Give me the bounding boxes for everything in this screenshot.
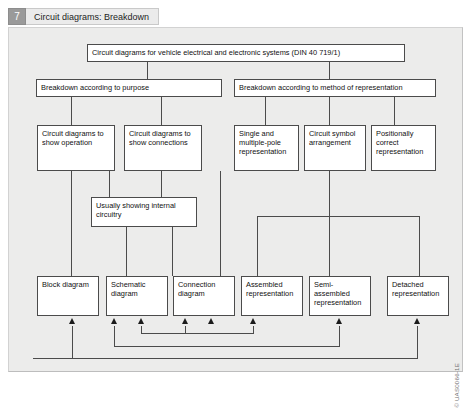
connector-connections-to-note [161, 171, 162, 197]
arrow-to-detached [414, 318, 420, 324]
arrow-to-connection-a [182, 318, 188, 324]
feedback-bus-outer [33, 358, 73, 359]
node-positionally-correct-label: Positionally correct representation [376, 129, 423, 156]
node-breakdown-purpose: Breakdown according to purpose [36, 79, 222, 97]
feedback-inner-c [253, 326, 254, 334]
feedback-second-a [114, 326, 115, 347]
connector-symbol-down [329, 171, 330, 216]
node-internal-circuitry: Usually showing internal circuitry [91, 197, 197, 227]
feedback-third-b [417, 326, 418, 359]
connector-symbol-bus-right [419, 216, 420, 276]
figure-title: Circuit diagrams: Breakdown [26, 8, 159, 25]
connector-symbol-bus-mid [329, 216, 330, 276]
node-schematic-diagram-label: Schematic diagram [111, 280, 146, 298]
node-breakdown-method-label: Breakdown according to method of represe… [239, 83, 403, 92]
feedback-inner-b [185, 326, 186, 334]
connector-operation-down [71, 171, 72, 276]
connector-purpose-b [161, 97, 162, 125]
node-semi-assembled-representation: Semi-assembled representation [309, 276, 371, 316]
node-symbol-arrangement: Circuit symbol arrangement [304, 125, 366, 171]
connector-root-right [329, 62, 330, 79]
feedback-third-a [72, 326, 73, 359]
node-block-diagram-label: Block diagram [42, 280, 89, 289]
node-connection-diagram: Connection diagram [173, 276, 235, 316]
node-positionally-correct: Positionally correct representation [371, 125, 436, 171]
node-semi-assembled-representation-label: Semi-assembled representation [314, 280, 361, 307]
node-assembled-representation-label: Assembled representation [246, 280, 293, 298]
node-block-diagram: Block diagram [37, 276, 99, 316]
node-symbol-arrangement-label: Circuit symbol arrangement [309, 129, 355, 147]
node-show-connections: Circuit diagrams to show connections [124, 125, 202, 171]
node-show-operation: Circuit diagrams to show operation [37, 125, 115, 171]
connector-method-a [265, 97, 266, 125]
node-detached-representation: Detached representation [387, 276, 449, 316]
node-assembled-representation: Assembled representation [241, 276, 303, 316]
node-show-connections-label: Circuit diagrams to show connections [129, 129, 191, 147]
node-single-multiple-pole-label: Single and multiple-pole representation [239, 129, 286, 156]
node-breakdown-purpose-label: Breakdown according to purpose [41, 83, 149, 92]
connector-note-b [172, 227, 173, 276]
connector-method-b [329, 97, 330, 125]
figure-number: 7 [8, 8, 26, 25]
connector-connections-down [220, 171, 221, 276]
node-show-operation-label: Circuit diagrams to show operation [42, 129, 104, 147]
connector-method-c [394, 97, 395, 125]
connector-symbol-bus-left [257, 216, 258, 276]
feedback-second-b [339, 326, 340, 347]
connector-operation-to-note [109, 171, 110, 197]
node-single-multiple-pole: Single and multiple-pole representation [234, 125, 299, 171]
node-root: Circuit diagrams for vehicle electrical … [87, 44, 405, 62]
arrow-to-block-diagram [69, 318, 75, 324]
node-internal-circuitry-label: Usually showing internal circuitry [96, 201, 176, 219]
connector-symbol-bus [257, 216, 420, 217]
connector-note-a [126, 227, 127, 276]
feedback-bus-inner [141, 333, 253, 334]
arrow-to-schematic-a [111, 318, 117, 324]
figure-credit: © UAS0066-1E [453, 363, 460, 408]
arrow-to-semi-assembled [336, 318, 342, 324]
feedback-inner-a [141, 326, 142, 334]
connector-purpose-a [71, 97, 72, 125]
feedback-bus-second [114, 346, 339, 347]
node-schematic-diagram: Schematic diagram [106, 276, 168, 316]
connector-root-left [147, 62, 148, 79]
node-breakdown-method: Breakdown according to method of represe… [234, 79, 436, 97]
arrow-to-connection-b [208, 318, 214, 324]
node-connection-diagram-label: Connection diagram [178, 280, 215, 298]
figure-header: 7 Circuit diagrams: Breakdown [8, 8, 159, 25]
arrow-to-schematic-b [138, 318, 144, 324]
node-detached-representation-label: Detached representation [392, 280, 439, 298]
diagram-panel: Circuit diagrams for vehicle electrical … [8, 27, 463, 372]
feedback-bus-third [72, 358, 417, 359]
node-root-label: Circuit diagrams for vehicle electrical … [92, 48, 340, 57]
arrow-to-assembled [250, 318, 256, 324]
